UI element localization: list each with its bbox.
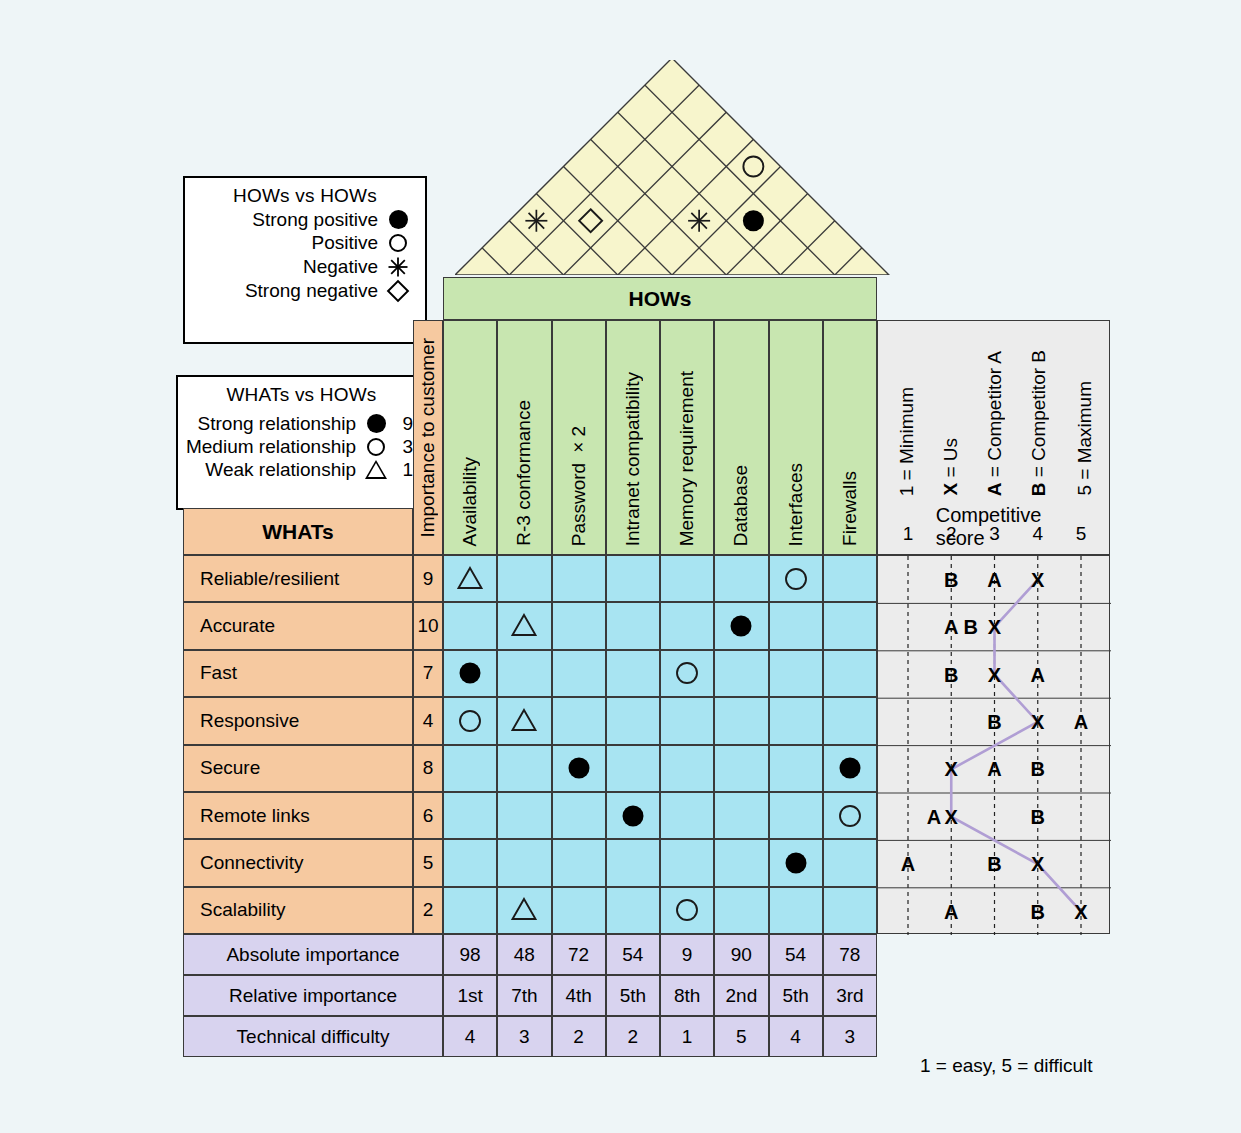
what-label-text-0: Reliable/resilient xyxy=(200,568,339,590)
what-label-text-7: Scalability xyxy=(200,899,286,921)
relationship-cell xyxy=(606,887,660,934)
competitive-marker-b: B xyxy=(1031,900,1045,923)
competitive-marker-a: A xyxy=(944,616,958,639)
relationship-cell xyxy=(443,650,497,697)
legend-whats-row-strong: Strong relationship 9 xyxy=(178,414,425,434)
summary-cell: 1 xyxy=(660,1016,714,1057)
open-circle-icon xyxy=(361,438,391,456)
competitive-marker-a: A xyxy=(927,805,941,828)
summary-cell: 2nd xyxy=(714,975,768,1016)
legend-hows-label-2: Negative xyxy=(303,257,378,277)
legend-whats-row-medium: Medium relationship 3 xyxy=(178,437,425,457)
how-header-4: Memory requirement xyxy=(660,320,714,555)
relationship-cell xyxy=(552,697,606,744)
how-header-3: Intranet compatibility xyxy=(606,320,660,555)
relationship-cell xyxy=(552,839,606,886)
summary-value-0-3: 54 xyxy=(622,944,643,966)
what-row-label: Remote links xyxy=(183,792,413,839)
competitive-axis-4: 4 xyxy=(1032,523,1043,545)
how-header-label-1: R-3 conformance xyxy=(513,400,535,546)
relationship-cell xyxy=(823,697,877,744)
filled-circle-icon xyxy=(728,613,754,639)
competitive-marker-x: X xyxy=(988,616,1001,639)
summary-row-label: Absolute importance xyxy=(183,934,443,975)
legend-whats-row-weak: Weak relationship 1 xyxy=(178,460,425,480)
how-header-7: Firewalls xyxy=(823,320,877,555)
legend-hows-label-0: Strong positive xyxy=(252,210,378,230)
summary-cell: 7th xyxy=(497,975,551,1016)
relationship-cell xyxy=(497,839,551,886)
relationship-cell xyxy=(823,745,877,792)
open-circle-icon xyxy=(457,708,483,734)
competitive-marker-b: B xyxy=(987,710,1001,733)
competitive-marker-a: A xyxy=(1031,663,1045,686)
summary-value-2-1: 3 xyxy=(519,1026,530,1048)
competitive-marker-x: X xyxy=(1031,853,1044,876)
summary-cell: 72 xyxy=(552,934,606,975)
how-header-label-3: Intranet compatibility xyxy=(622,372,644,546)
asterisk-icon xyxy=(688,210,710,232)
difficulty-note: 1 = easy, 5 = difficult xyxy=(920,1055,1093,1077)
summary-row-label: Technical difficulty xyxy=(183,1016,443,1057)
summary-value-2-4: 1 xyxy=(682,1026,693,1048)
relationship-cell xyxy=(714,887,768,934)
relationship-cell xyxy=(714,602,768,649)
how-header-label-0: Availability xyxy=(459,457,481,546)
competitive-marker-b: B xyxy=(944,663,958,686)
summary-value-2-2: 2 xyxy=(573,1026,584,1048)
competitive-legend-2: A = Competitor A xyxy=(984,346,1006,496)
relationship-cell xyxy=(443,697,497,744)
competitive-marker-x: X xyxy=(945,805,958,828)
filled-circle-icon xyxy=(783,850,809,876)
summary-value-1-4: 8th xyxy=(674,985,700,1007)
filled-circle-icon xyxy=(566,755,592,781)
importance-value-text-3: 4 xyxy=(423,710,434,732)
summary-value-1-2: 4th xyxy=(565,985,591,1007)
how-header-label-4: Memory requirement xyxy=(676,371,698,546)
summary-value-2-5: 5 xyxy=(736,1026,747,1048)
open-circle-icon xyxy=(674,660,700,686)
relationship-cell xyxy=(606,792,660,839)
relationship-cell xyxy=(769,792,823,839)
competitive-marker-x: X xyxy=(988,663,1001,686)
relationship-cell xyxy=(714,839,768,886)
filled-circle-icon xyxy=(383,210,413,229)
relationship-cell xyxy=(606,697,660,744)
hows-banner: HOWs xyxy=(443,277,877,320)
relationship-cell xyxy=(497,887,551,934)
summary-cell: 2 xyxy=(606,1016,660,1057)
importance-value-3: 4 xyxy=(413,697,443,744)
how-header-6: Interfaces xyxy=(769,320,823,555)
relationship-cell xyxy=(660,697,714,744)
relationship-cell xyxy=(443,745,497,792)
competitive-header: 1 = MinimumX = UsA = Competitor AB = Com… xyxy=(877,320,1110,555)
relationship-cell xyxy=(823,602,877,649)
importance-header-label: Importance to customer xyxy=(417,338,439,538)
relationship-cell xyxy=(823,792,877,839)
relationship-cell xyxy=(660,887,714,934)
relationship-cell xyxy=(769,555,823,602)
relationship-cell xyxy=(660,555,714,602)
what-row-label: Responsive xyxy=(183,697,413,744)
open-triangle-icon xyxy=(361,460,391,479)
summary-value-0-4: 9 xyxy=(682,944,693,966)
relationship-cell xyxy=(769,650,823,697)
summary-cell: 3 xyxy=(497,1016,551,1057)
relationship-cell xyxy=(497,697,551,744)
competitive-legend-4: 5 = Maximum xyxy=(1074,346,1096,496)
relationship-cell xyxy=(823,887,877,934)
filled-circle-icon xyxy=(620,803,646,829)
importance-value-text-0: 9 xyxy=(423,568,434,590)
what-row-label: Fast xyxy=(183,650,413,697)
summary-value-0-6: 54 xyxy=(785,944,806,966)
competitive-legend-0: 1 = Minimum xyxy=(896,346,918,496)
summary-value-0-5: 90 xyxy=(731,944,752,966)
relationship-cell xyxy=(823,839,877,886)
summary-cell: 4th xyxy=(552,975,606,1016)
importance-value-text-1: 10 xyxy=(417,615,438,637)
summary-cell: 4 xyxy=(443,1016,497,1057)
summary-cell: 5th xyxy=(606,975,660,1016)
summary-cell: 98 xyxy=(443,934,497,975)
relationship-cell xyxy=(606,602,660,649)
summary-cell: 54 xyxy=(769,934,823,975)
